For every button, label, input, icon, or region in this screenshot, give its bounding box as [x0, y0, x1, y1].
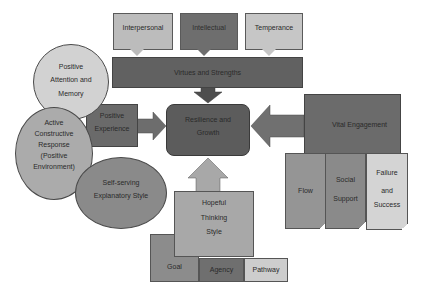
callout-label: Interpersonal	[123, 24, 164, 31]
hope-agency-box: Agency	[199, 258, 244, 282]
doc-flow: Flow	[285, 153, 326, 229]
arrow-right-icon	[137, 112, 166, 140]
callout-interpersonal: Interpersonal	[113, 13, 173, 50]
circle-label: Self-serving	[94, 176, 148, 189]
circle-label: Environment)	[33, 162, 75, 173]
circle-self-serving-explanatory-style: Self-serving Explanatory Style	[75, 157, 167, 229]
circle-label: Explanatory Style	[94, 189, 148, 202]
circle-label: Response	[33, 140, 75, 151]
circle-label: (Positive	[33, 151, 75, 162]
doc-social-support: Social Support	[325, 153, 366, 229]
callout-label: Temperance	[255, 24, 294, 31]
circle-label: Active	[33, 118, 75, 129]
vital-engagement-box: Vital Engagement	[304, 94, 401, 156]
virtues-label: Virtues and Strengths	[174, 66, 241, 79]
hopeful-label: Hopeful	[175, 196, 253, 211]
doc-label: Success	[374, 198, 400, 211]
hope-agency-label: Agency	[210, 263, 233, 276]
virtues-strengths-bar: Virtues and Strengths	[112, 57, 303, 88]
hope-goal-label: Goal	[167, 260, 182, 273]
hopeful-label: Style	[175, 225, 253, 240]
circle-label: Attention and	[50, 73, 91, 86]
circle-label: Memory	[50, 87, 91, 100]
callout-label: Intellectual	[192, 24, 225, 31]
doc-failure-success: Failure and Success	[366, 153, 408, 230]
page-fold-icon	[401, 223, 408, 230]
callout-temperance: Temperance	[245, 13, 303, 50]
hopeful-thinking-style-box: Hopeful Thinking Style	[174, 191, 254, 257]
hope-pathway-box: Pathway	[244, 258, 288, 282]
doc-label: and	[374, 184, 400, 197]
page-fold-icon	[359, 222, 366, 229]
doc-label: Failure	[374, 166, 400, 179]
positive-experience-line2: Experience	[87, 122, 137, 135]
center-label-line1: Resilience and	[167, 113, 249, 126]
doc-label: Social	[333, 173, 358, 186]
hope-pathway-label: Pathway	[253, 263, 280, 276]
center-label-line2: Growth	[167, 126, 249, 139]
callout-intellectual: Intellectual	[180, 13, 238, 50]
doc-label: Flow	[298, 184, 313, 197]
circle-label: Constructive	[33, 129, 75, 140]
hopeful-label: Thinking	[175, 211, 253, 226]
vital-engagement-label: Vital Engagement	[332, 118, 387, 131]
arrow-up-icon	[188, 158, 228, 192]
arrow-left-icon	[251, 105, 304, 147]
circle-label: Positive	[50, 60, 91, 73]
center-resilience-growth: Resilience and Growth	[166, 104, 250, 156]
arrow-down-icon	[194, 87, 222, 103]
doc-label: Support	[333, 192, 358, 205]
